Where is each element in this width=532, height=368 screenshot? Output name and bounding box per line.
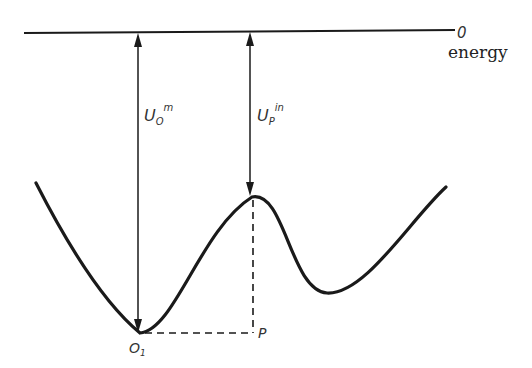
arrow-u-o (134, 33, 142, 333)
u-p-label: UPin (257, 102, 284, 127)
u-o-label: UOm (144, 102, 174, 127)
potential-curve (36, 183, 446, 333)
o1-label: O1 (129, 340, 146, 358)
arrow-head-up-icon (134, 33, 142, 47)
zero-label: 0 (457, 24, 467, 42)
zero-energy-line (24, 30, 455, 33)
arrow-head-down-icon (246, 182, 254, 196)
arrow-head-up-icon (246, 32, 254, 46)
p-label: P (258, 325, 267, 341)
arrow-u-p (246, 32, 254, 196)
energy-axis-label: energy (448, 42, 508, 62)
energy-diagram: 0 energy UOm UPin O1 P (0, 0, 532, 368)
